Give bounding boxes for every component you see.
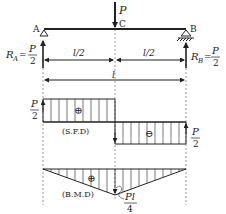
shear-force-diagram <box>43 99 186 144</box>
sfd-left-den: 2 <box>32 111 38 121</box>
ra-numerator: P <box>28 43 36 54</box>
point-c-label: C <box>119 19 126 29</box>
dim-label-half-right: l/2 <box>143 48 155 58</box>
pin-support-icon <box>40 30 48 36</box>
beam-diagram: P C A B R A = P 2 R B = P 2 l/2 <box>0 0 226 214</box>
reaction-a-label: R A = P 2 <box>5 43 37 66</box>
bmd-max-den: 4 <box>127 204 133 214</box>
ra-denominator: 2 <box>30 56 36 66</box>
ra-equals: = <box>19 50 27 60</box>
load-label: P <box>118 4 127 17</box>
sfd-right-value: P 2 <box>191 126 200 149</box>
sfd-left-value: P 2 <box>30 98 39 121</box>
sfd-negative-sign: ⊖ <box>145 128 153 139</box>
rb-equals: = <box>204 52 212 62</box>
bmd-title: (B.M.D) <box>62 190 94 199</box>
sfd-right-den: 2 <box>193 139 199 149</box>
rb-subscript: B <box>197 57 203 65</box>
bmd-max-value: Pl 4 <box>124 191 137 214</box>
reaction-b-label: R B = P 2 <box>190 45 220 68</box>
sfd-right-num: P <box>191 126 199 137</box>
rb-numerator: P <box>211 45 219 56</box>
bmd-positive-sign: ⊕ <box>87 173 95 184</box>
point-a-label: A <box>32 24 40 34</box>
point-b-label: B <box>190 24 197 34</box>
sfd-title: (S.F.D) <box>62 127 89 136</box>
dim-label-span: l <box>112 70 115 80</box>
bmd-max-num: Pl <box>124 191 135 202</box>
sfd-positive-sign: ⊕ <box>74 105 82 116</box>
dim-label-half-left: l/2 <box>73 48 85 58</box>
sfd-left-num: P <box>30 98 38 109</box>
ra-subscript: A <box>12 55 18 63</box>
rb-denominator: 2 <box>213 58 219 68</box>
